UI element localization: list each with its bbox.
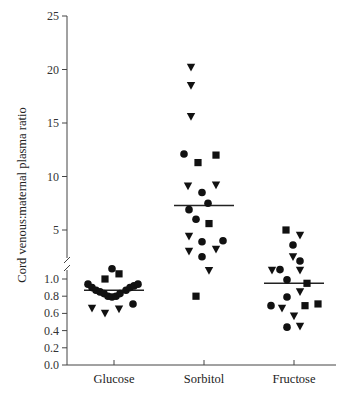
triangle-down-marker: [187, 64, 195, 72]
triangle-down-marker: [212, 246, 220, 254]
triangle-down-marker: [187, 113, 195, 121]
circle-marker: [129, 300, 137, 308]
circle-marker: [198, 238, 206, 246]
circle-marker: [198, 253, 206, 261]
triangle-down-marker: [296, 232, 304, 240]
circle-marker: [296, 257, 304, 265]
y-axis-ticks: 0.00.20.40.60.81.0510152025: [44, 9, 67, 372]
triangle-down-marker: [88, 305, 96, 313]
triangle-down-marker: [212, 181, 220, 189]
x-category-label: Glucose: [94, 372, 135, 386]
circle-marker: [192, 216, 200, 224]
y-tick-label: 1.0: [44, 272, 59, 286]
square-marker: [115, 270, 122, 277]
data-points: [84, 64, 321, 331]
scatter-chart: 0.00.20.40.60.81.0510152025 GlucoseSorbi…: [0, 0, 353, 403]
circle-marker: [108, 265, 116, 273]
triangle-down-marker: [185, 248, 193, 256]
x-category-label: Fructose: [272, 372, 316, 386]
y-tick-label: 0.4: [44, 324, 59, 338]
triangle-down-marker: [268, 267, 276, 275]
square-marker: [301, 302, 308, 309]
triangle-down-marker: [289, 253, 297, 261]
y-tick-label: 20: [47, 63, 59, 77]
y-tick-label: 5: [53, 223, 59, 237]
triangle-down-marker: [278, 305, 286, 313]
circle-marker: [219, 237, 227, 245]
square-marker: [101, 275, 108, 282]
square-marker: [314, 300, 321, 307]
square-marker: [194, 159, 201, 166]
circle-marker: [276, 266, 284, 274]
circle-marker: [204, 199, 212, 207]
triangle-down-marker: [184, 183, 192, 191]
square-marker: [205, 220, 212, 227]
circle-marker: [180, 150, 188, 158]
circle-marker: [267, 302, 275, 310]
y-tick-label: 10: [47, 170, 59, 184]
x-category-label: Sorbitol: [184, 372, 225, 386]
triangle-down-marker: [296, 267, 304, 275]
square-marker: [212, 152, 219, 159]
square-marker: [303, 280, 310, 287]
y-tick-label: 15: [47, 116, 59, 130]
triangle-down-marker: [205, 267, 213, 275]
square-marker: [282, 226, 289, 233]
circle-marker: [185, 206, 193, 214]
triangle-down-marker: [185, 233, 193, 241]
y-tick-label: 0.8: [44, 289, 59, 303]
circle-marker: [283, 323, 291, 331]
y-tick-label: 0.6: [44, 306, 59, 320]
triangle-down-marker: [296, 288, 304, 296]
y-tick-label: 25: [47, 9, 59, 23]
x-axis-ticks: GlucoseSorbitolFructose: [94, 360, 316, 386]
circle-marker: [289, 241, 297, 249]
circle-marker: [283, 276, 291, 284]
square-marker: [192, 293, 199, 300]
triangle-down-marker: [115, 306, 123, 314]
circle-marker: [283, 293, 291, 301]
y-tick-label: 0.0: [44, 358, 59, 372]
circle-marker: [134, 280, 142, 288]
y-axis-title: Cord venous:maternal plasma ratio: [15, 107, 29, 282]
triangle-down-marker: [101, 310, 109, 318]
circle-marker: [198, 189, 206, 197]
triangle-down-marker: [187, 82, 195, 90]
y-tick-label: 0.2: [44, 341, 59, 355]
triangle-down-marker: [290, 312, 298, 320]
triangle-down-marker: [296, 323, 304, 331]
